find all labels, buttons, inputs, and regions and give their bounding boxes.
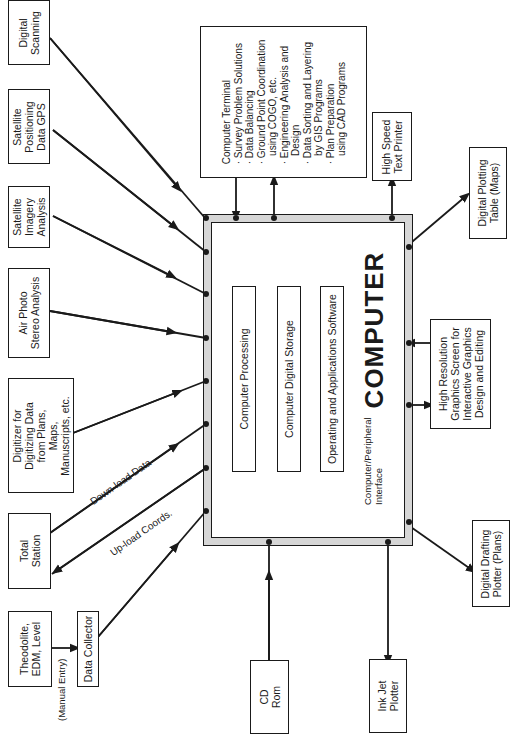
output-label: Digital Plotting Table (Maps) [476,159,500,226]
module-operating-software: Operating and Applications Software [320,286,344,472]
input-label: CD Rom [258,686,282,708]
output-label: Digital Drafting Plotter (Plans) [479,529,503,598]
input-label: Total Station [18,535,42,568]
module-label: Operating and Applications Software [326,294,338,464]
interface-label: Computer/Peripheral Interface [362,417,384,505]
input-digital-scanning: Digital Scanning [8,0,50,65]
input-total-station: Total Station [8,513,51,589]
output-computer-terminal: Computer Terminal · Survey Problem Solut… [200,26,367,178]
input-satellite-gps: Satellite Positioning Data GPS [8,89,50,164]
manual-entry-label: (Manual Entry) [56,659,67,721]
output-label: High Resolution Graphics Screen for Inte… [437,327,485,420]
input-satellite-imagery: Satellite Imagery Analysis [8,186,50,248]
input-data-collector: Data Collector [77,611,99,687]
input-theodolite: Theodolite, EDM, Level [8,611,52,687]
input-label: Digitizer for Digitizing Data from Plans… [11,396,71,475]
module-label: Computer Digital Storage [283,320,295,438]
module-computer-processing: Computer Processing [232,286,256,472]
module-digital-storage: Computer Digital Storage [277,286,301,472]
input-label: Air Photo Stereo Analysis [17,277,41,349]
input-air-photo: Air Photo Stereo Analysis [8,268,50,358]
input-label: Digital Scanning [17,11,41,55]
output-label: Ink Jet Plotter [376,681,400,712]
module-label: Computer Processing [238,329,250,430]
computer-title: COMPUTER [359,252,390,409]
output-label: High Speed Text Printer [380,119,404,174]
input-digitizer: Digitizer for Digitizing Data from Plans… [8,378,74,493]
output-label: Computer Terminal · Survey Problem Solut… [220,40,347,165]
input-label: Theodolite, EDM, Level [18,622,42,676]
output-ink-jet: Ink Jet Plotter [369,659,407,733]
input-cd-rom: CD Rom [250,660,289,734]
output-text-printer: High Speed Text Printer [372,112,412,181]
output-plotting-table: Digital Plotting Table (Maps) [469,147,507,239]
input-label: Satellite Imagery Analysis [11,197,47,236]
output-graphics-screen: High Resolution Graphics Screen for Inte… [430,319,491,429]
input-label: Data Collector [82,616,94,683]
output-drafting-plotter: Digital Drafting Plotter (Plans) [472,520,510,607]
input-label: Satellite Positioning Data GPS [11,101,47,152]
